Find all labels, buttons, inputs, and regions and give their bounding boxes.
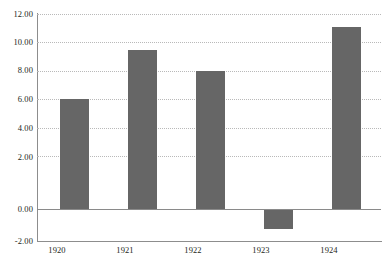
- y-axis-tick-label: 2.00: [0, 153, 33, 162]
- bar-1924[interactable]: [332, 27, 361, 209]
- y-axis-tick-label: 4.00: [0, 124, 33, 133]
- bar-1922[interactable]: [196, 71, 225, 209]
- x-axis-tick-label-1924: 1924: [295, 246, 363, 255]
- bar-chart: 12.00 10.00 8.00 6.00 4.00 2.00 0.00 -2.…: [0, 0, 392, 264]
- x-axis-line: [37, 241, 382, 242]
- y-axis-tick-label: 8.00: [0, 66, 33, 75]
- y-axis-tick-label: 6.00: [0, 95, 33, 104]
- y-axis-tick-label: -2.00: [0, 237, 33, 246]
- x-axis-tick-label-1920: 1920: [23, 246, 91, 255]
- plot-area: [37, 14, 381, 241]
- y-axis-tick-label: 12.00: [0, 10, 33, 19]
- y-axis-tick-label: 0.00: [0, 205, 33, 214]
- x-axis-tick-label-1921: 1921: [91, 246, 159, 255]
- bar-1923[interactable]: [264, 210, 293, 229]
- x-axis-tick-label-1923: 1923: [227, 246, 295, 255]
- bars-layer: [37, 14, 381, 241]
- bar-1921[interactable]: [128, 50, 157, 209]
- bar-1920[interactable]: [60, 99, 89, 209]
- x-axis-tick-label-1922: 1922: [159, 246, 227, 255]
- y-axis-tick-label: 10.00: [0, 38, 33, 47]
